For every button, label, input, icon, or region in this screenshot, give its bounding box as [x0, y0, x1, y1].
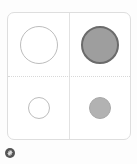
circle-small-outline[interactable]: [28, 97, 50, 119]
matrix-cell-top-right[interactable]: [69, 13, 130, 76]
gear-icon[interactable]: [5, 148, 15, 158]
matrix-cell-top-left[interactable]: [8, 13, 69, 76]
circle-small-filled[interactable]: [89, 97, 111, 119]
diagram-canvas: [0, 0, 137, 164]
matrix-cell-bottom-left[interactable]: [8, 76, 69, 139]
circle-large-outline[interactable]: [20, 26, 58, 64]
circle-large-filled[interactable]: [81, 26, 119, 64]
matrix-cell-bottom-right[interactable]: [69, 76, 130, 139]
comparison-matrix-card: [7, 12, 131, 140]
